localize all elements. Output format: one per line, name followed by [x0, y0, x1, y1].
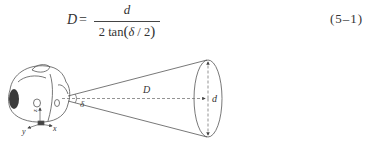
- diameter-label: d: [212, 93, 218, 104]
- fraction-numerator: d: [94, 2, 160, 18]
- fraction-bar: [94, 21, 160, 22]
- axis-y-label: y: [21, 127, 26, 136]
- angle-arc: [75, 94, 76, 103]
- fraction: d 2 tan(δ / 2): [94, 2, 160, 42]
- denominator-tan: 2 tan: [99, 25, 124, 39]
- axis-x-label: x: [52, 124, 57, 133]
- equation-lhs: D: [67, 12, 77, 28]
- equation-number: (5–1): [330, 11, 363, 27]
- fraction-denominator: 2 tan(δ / 2): [94, 23, 160, 40]
- robot-camera-fov-diagram: z y x D d δ: [0, 45, 369, 151]
- speaker-grille: [9, 89, 19, 109]
- denominator-rest: / 2: [134, 25, 150, 39]
- equation-5-1: D = d 2 tan(δ / 2) (5–1): [0, 0, 369, 45]
- angle-label: δ: [80, 99, 85, 109]
- distance-label: D: [142, 84, 151, 95]
- axis-z-label: z: [31, 109, 39, 113]
- paren-close: ): [150, 23, 155, 39]
- equals-sign: =: [79, 12, 87, 28]
